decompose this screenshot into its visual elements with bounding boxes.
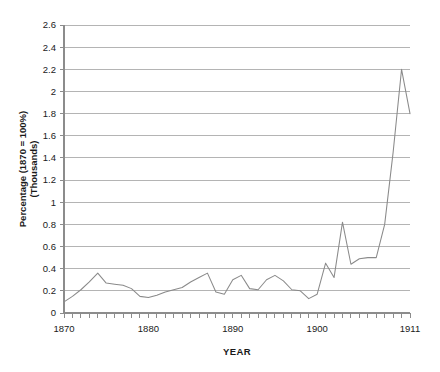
y-tick-label: 0.8 xyxy=(43,219,56,230)
y-tick-label: 0.4 xyxy=(43,263,56,274)
y-tick-label: 0.6 xyxy=(43,241,56,252)
chart-container: 00.20.40.60.811.21.41.61.822.22.42.6 187… xyxy=(0,0,440,372)
x-tick-label: 1870 xyxy=(53,323,74,334)
x-tick-label: 1880 xyxy=(138,323,159,334)
y-tick-label: 0.2 xyxy=(43,285,56,296)
y-tick-label: 2.6 xyxy=(43,19,56,30)
y-tick-label: 0 xyxy=(51,307,56,318)
y-tick-label: 1.2 xyxy=(43,174,56,185)
y-tick-label: 2.4 xyxy=(43,42,56,53)
x-tick-label: 1890 xyxy=(222,323,243,334)
line-chart: 00.20.40.60.811.21.41.61.822.22.42.6 187… xyxy=(0,0,440,372)
y-axis-title: Percentage (1870 = 100%) xyxy=(17,111,28,227)
y-axis-title-secondary: (Thousands) xyxy=(28,141,39,198)
y-tick-label: 1.6 xyxy=(43,130,56,141)
x-tick-label: 1900 xyxy=(307,323,328,334)
y-tick-label: 1 xyxy=(51,197,56,208)
x-tick-label: 1911 xyxy=(400,323,420,334)
y-tick-label: 1.8 xyxy=(43,108,56,119)
x-axis-title: YEAR xyxy=(223,346,251,357)
y-tick-label: 2 xyxy=(51,86,56,97)
y-tick-label: 2.2 xyxy=(43,64,56,75)
y-tick-label: 1.4 xyxy=(43,152,56,163)
chart-background xyxy=(0,0,440,372)
